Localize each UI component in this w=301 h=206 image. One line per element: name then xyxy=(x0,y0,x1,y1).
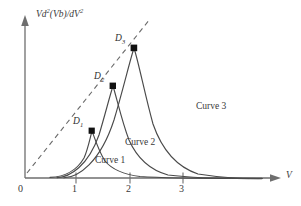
chart-canvas xyxy=(0,0,301,206)
y-axis-title: Vd2(Vb)/dV2 xyxy=(36,7,83,19)
peak-label-d3-sub: 3 xyxy=(122,38,125,45)
y-axis xyxy=(21,15,29,178)
y-axis-title-sup2: 2 xyxy=(80,7,83,14)
x-tick-label-0: 0 xyxy=(18,183,23,194)
curve-3-path xyxy=(64,48,262,179)
peak-label-d1: D1 xyxy=(73,116,83,128)
peak-markers xyxy=(89,45,138,134)
x-axis-title: V xyxy=(286,170,292,180)
peak-label-d2-sub: 2 xyxy=(101,76,104,83)
x-tick-label-3: 3 xyxy=(179,183,184,194)
marker-d2 xyxy=(110,83,116,89)
peak-label-d1-sub: 1 xyxy=(80,121,83,128)
y-axis-title-part1: Vd xyxy=(36,9,47,19)
curve-label-2: Curve 2 xyxy=(125,137,155,147)
marker-d1 xyxy=(89,128,95,134)
x-tick-label-1: 1 xyxy=(72,183,77,194)
figure-container: Vd2(Vb)/dV2 V 0 1 2 3 D1 D2 D3 Curve 1 C… xyxy=(0,0,301,206)
curve-label-3: Curve 3 xyxy=(196,101,226,111)
curve-2-path xyxy=(57,86,262,179)
peak-label-d3-base: D xyxy=(115,33,122,43)
peak-label-d1-base: D xyxy=(73,116,80,126)
peak-label-d2: D2 xyxy=(94,71,104,83)
marker-d3 xyxy=(131,45,138,52)
x-tick-label-2: 2 xyxy=(126,183,131,194)
curve-label-1: Curve 1 xyxy=(95,155,125,165)
peak-label-d2-base: D xyxy=(94,71,101,81)
peak-label-d3: D3 xyxy=(115,33,125,45)
peak-envelope-guide-line xyxy=(27,19,150,173)
y-axis-title-part2: (Vb)/dV xyxy=(50,9,80,19)
